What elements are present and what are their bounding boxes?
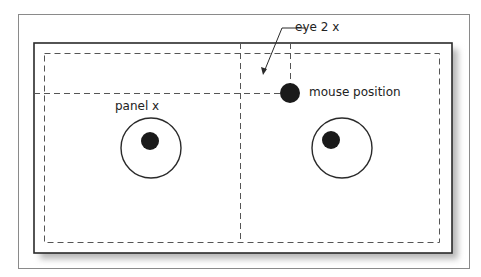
diagram-canvas	[0, 0, 481, 277]
panel	[34, 43, 452, 253]
right-eye-outline	[312, 118, 372, 178]
right-eye-pupil	[322, 131, 340, 149]
left-eye-pupil	[141, 132, 159, 150]
mouse-position-dot	[280, 83, 300, 103]
eye-2-x-label: eye 2 x	[295, 21, 339, 33]
panel-x-label: panel x	[115, 100, 159, 112]
eyes-diagram: eye 2 x mouse position panel x	[0, 0, 481, 277]
mouse-position-label: mouse position	[309, 86, 401, 98]
